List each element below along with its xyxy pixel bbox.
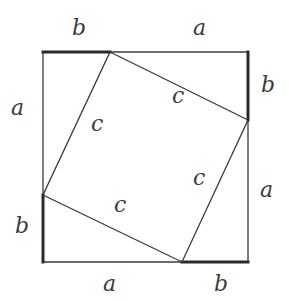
- label-inner-c-bottom-left: c: [114, 192, 126, 217]
- label-top-a: a: [193, 15, 206, 40]
- label-inner-c-bottom-right: c: [193, 165, 205, 190]
- label-bottom-b: b: [214, 271, 228, 296]
- label-bottom-a: a: [103, 271, 116, 296]
- diagram-canvas: b a a b b a a b c c c c: [0, 0, 289, 301]
- label-inner-c-top-right: c: [172, 83, 184, 108]
- label-left-a: a: [11, 95, 24, 120]
- label-right-a: a: [260, 177, 273, 202]
- label-top-b: b: [72, 15, 86, 40]
- pythagorean-diagram: b a a b b a a b c c c c: [0, 0, 289, 301]
- label-right-b: b: [261, 72, 275, 97]
- inner-square-c: [43, 52, 248, 262]
- label-left-b: b: [15, 213, 29, 238]
- label-inner-c-top-left: c: [91, 111, 103, 136]
